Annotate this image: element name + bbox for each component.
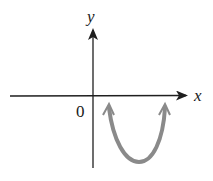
parabola-curve — [109, 108, 165, 162]
x-axis-label: x — [193, 86, 202, 105]
x-axis — [10, 96, 186, 97]
coordinate-diagram: y x 0 — [0, 0, 213, 181]
y-axis-label: y — [85, 7, 95, 26]
origin-label: 0 — [76, 102, 85, 121]
